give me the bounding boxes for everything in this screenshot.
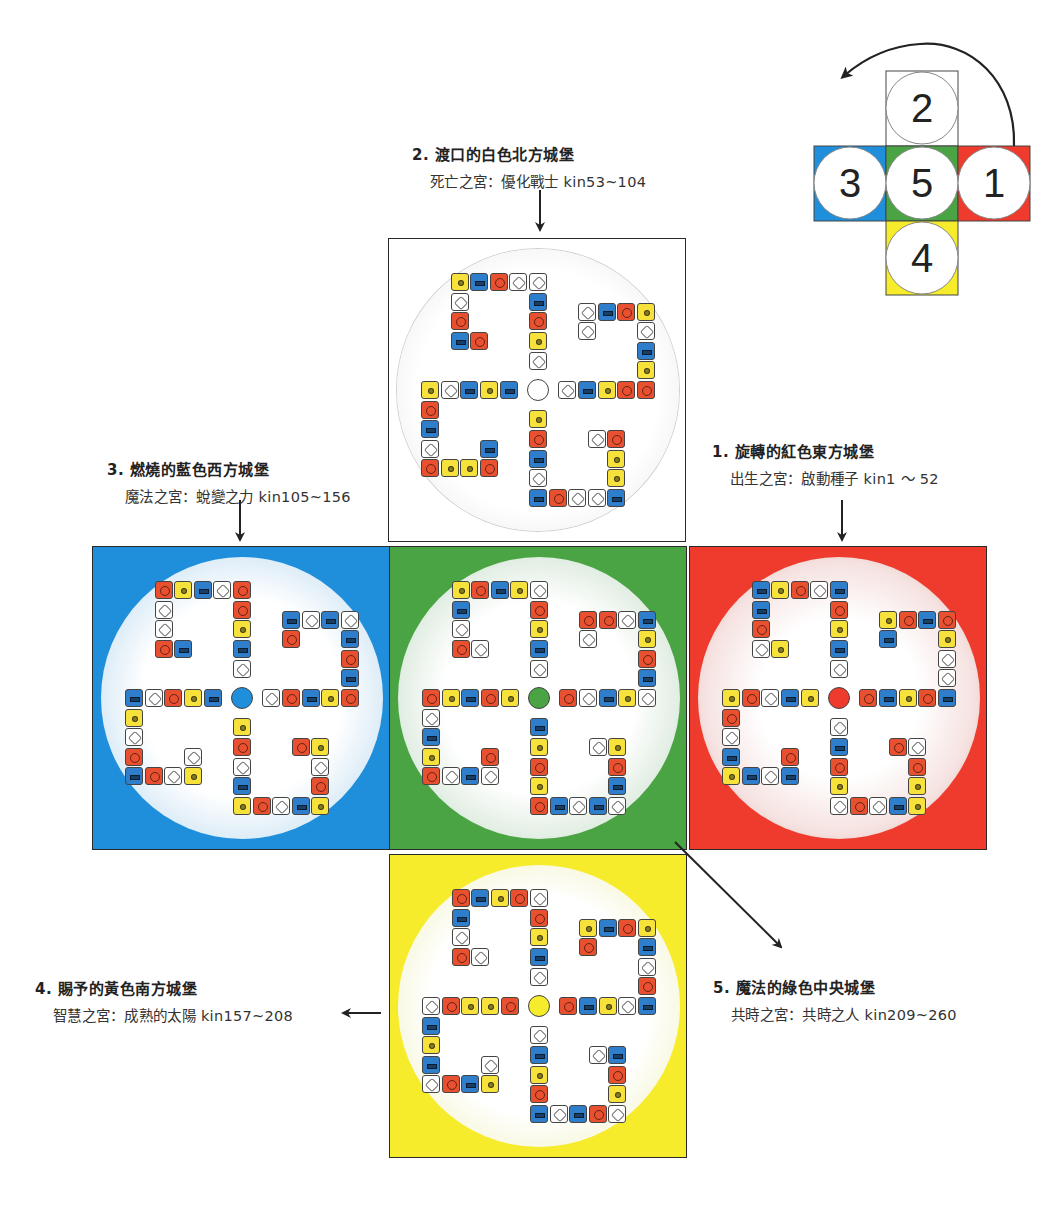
castle-legend-diagram: 2 3 5 1 4 (780, 40, 1040, 300)
legend-number-4: 4 (911, 236, 933, 280)
legend-number-5: 5 (911, 161, 933, 205)
arrow-center (675, 842, 781, 947)
legend-number-3: 3 (839, 161, 861, 205)
legend-number-2: 2 (911, 86, 933, 130)
legend-number-1: 1 (983, 161, 1005, 205)
